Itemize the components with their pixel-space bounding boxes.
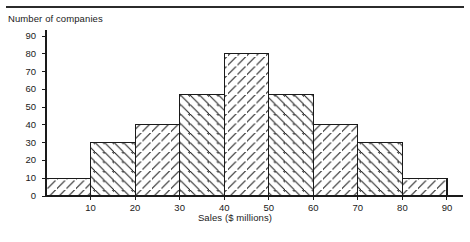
bar	[313, 125, 358, 196]
bar-series	[46, 54, 447, 196]
y-tick-label: 80	[12, 49, 36, 59]
y-tick-label: 90	[12, 31, 36, 41]
y-tick-label: 50	[12, 102, 36, 112]
bar	[358, 143, 403, 196]
y-tick-label: 0	[12, 191, 36, 201]
bar	[91, 143, 136, 196]
bar	[180, 95, 225, 196]
bar	[269, 95, 314, 196]
bar	[224, 54, 269, 196]
x-axis-title: Sales ($ millions)	[0, 212, 470, 223]
y-tick-label: 20	[12, 155, 36, 165]
bar	[46, 178, 91, 196]
y-tick-label: 10	[12, 173, 36, 183]
bar	[135, 125, 180, 196]
y-tick-label: 60	[12, 84, 36, 94]
y-tick-label: 30	[12, 138, 36, 148]
y-tick-label: 40	[12, 120, 36, 130]
histogram-figure: Number of companies 0102030405060708090 …	[0, 0, 470, 242]
y-tick-label: 70	[12, 67, 36, 77]
bar	[402, 178, 447, 196]
